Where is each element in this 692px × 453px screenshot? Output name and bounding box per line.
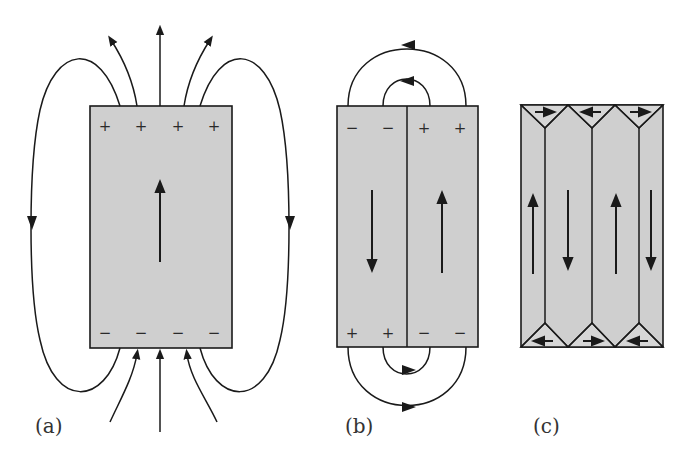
field-loop-outer-bottom: [348, 347, 466, 406]
panel-label: (b): [345, 414, 373, 438]
bottom-charge: +: [382, 324, 395, 342]
panel-label: (a): [35, 414, 63, 438]
bottom-charge: −: [135, 324, 148, 342]
panel-c: (c): [521, 105, 663, 438]
bottom-charge: −: [208, 324, 221, 342]
top-charge: −: [382, 119, 395, 137]
panel-a: + + + + − − − − (a): [27, 30, 295, 438]
top-charge: −: [346, 119, 359, 137]
top-charge: +: [99, 117, 112, 135]
field-line: [187, 354, 217, 422]
bottom-charge: −: [418, 324, 431, 342]
top-charge: +: [208, 117, 221, 135]
bottom-charge: −: [172, 324, 185, 342]
bottom-charge: −: [99, 324, 112, 342]
arrowhead-right-icon: [402, 402, 416, 412]
top-charge: +: [418, 119, 431, 137]
arrowhead-down-icon: [285, 216, 295, 230]
bottom-charge: +: [346, 324, 359, 342]
arrowhead-down-icon: [27, 216, 37, 230]
field-loop-outer-top: [348, 49, 466, 106]
domain-figure: + + + + − − − − (a) − − + + + + − −: [0, 0, 692, 453]
top-charge: +: [135, 117, 148, 135]
top-charge: +: [454, 119, 467, 137]
top-charge: +: [172, 117, 185, 135]
field-line: [184, 40, 210, 106]
field-line: [111, 40, 137, 106]
panel-label: (c): [533, 414, 560, 438]
panel-b: − − + + + + − − (b): [337, 40, 478, 438]
bottom-charge: −: [454, 324, 467, 342]
arrowhead-left-icon: [400, 76, 414, 86]
